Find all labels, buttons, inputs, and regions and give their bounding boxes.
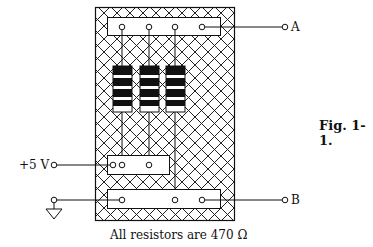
terminal-a-label: A [291, 21, 300, 33]
resistor-1 [113, 66, 132, 112]
figure-label: Fig. 1-1. [319, 118, 373, 148]
circuit-diagram [0, 0, 373, 247]
terminal-a [282, 24, 288, 30]
resistor-2 [140, 66, 159, 112]
resistor-3 [166, 66, 185, 112]
terminal-b [282, 197, 288, 203]
ground-icon [46, 209, 62, 219]
supply-label: +5 V [19, 159, 49, 171]
figure-caption: All resistors are 470 Ω [110, 228, 247, 242]
terminal-5v [51, 162, 57, 168]
breadboard [96, 8, 235, 221]
terminal-b-label: B [291, 194, 300, 206]
bus-strip-5v [108, 156, 170, 175]
